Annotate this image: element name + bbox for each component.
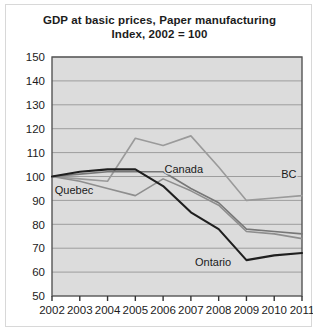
plot-area-wrapper: 5060708090100110120130140150 20022003200…	[6, 5, 313, 328]
y-tick-label: 140	[26, 75, 45, 87]
y-tick-label: 150	[26, 51, 45, 63]
x-tick-label: 2006	[150, 304, 176, 316]
y-tick-label: 130	[26, 99, 45, 111]
series-label-quebec: Quebec	[55, 184, 94, 196]
series-label-bc: BC	[281, 168, 296, 180]
x-tick-label: 2007	[178, 304, 204, 316]
y-tick-label: 50	[32, 290, 45, 302]
y-tick-label: 70	[32, 242, 45, 254]
x-tick-label: 2010	[261, 304, 287, 316]
x-tick-label: 2005	[123, 304, 149, 316]
y-axis-tick-labels: 5060708090100110120130140150	[26, 51, 45, 302]
chart-card: GDP at basic prices, Paper manufacturing…	[5, 4, 312, 327]
x-tick-label: 2003	[67, 304, 93, 316]
x-tick-label: 2002	[39, 304, 65, 316]
x-tick-label: 2009	[234, 304, 260, 316]
y-tick-label: 80	[32, 219, 45, 231]
y-tick-label: 110	[27, 147, 45, 159]
y-tick-label: 100	[26, 171, 45, 183]
x-axis-tick-labels: 2002200320042005200620072008200920102011	[39, 304, 313, 316]
series-label-ontario: Ontario	[195, 256, 231, 268]
line-chart-svg: 5060708090100110120130140150 20022003200…	[6, 5, 313, 328]
series-label-canada: Canada	[165, 163, 204, 175]
x-tick-label: 2008	[206, 304, 232, 316]
y-tick-label: 90	[32, 195, 45, 207]
x-tick-label: 2011	[290, 304, 313, 316]
y-tick-label: 120	[26, 123, 45, 135]
y-tick-label: 60	[32, 266, 45, 278]
x-tick-label: 2004	[95, 304, 121, 316]
